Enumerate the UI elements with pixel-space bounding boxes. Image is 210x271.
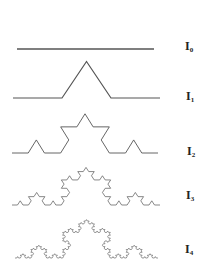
label-i1: I1 [186, 90, 194, 104]
label-i4: I4 [185, 243, 193, 257]
koch-curve-i2 [12, 114, 158, 153]
label-i3: I3 [186, 189, 194, 203]
koch-curve-figure [0, 0, 210, 271]
label-i2: I2 [187, 145, 195, 159]
koch-curve-i4 [15, 220, 158, 258]
koch-curves-group [12, 49, 160, 258]
label-i0: I0 [185, 40, 193, 54]
koch-curve-i1 [13, 62, 160, 98]
koch-curve-i3 [12, 167, 160, 205]
